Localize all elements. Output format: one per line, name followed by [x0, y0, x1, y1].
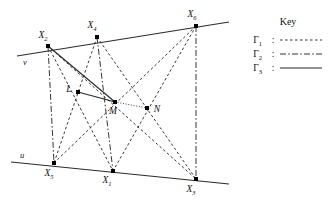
segment-group — [48, 26, 196, 179]
key-legend: Key Γ1:Γ2:Γ3: — [253, 16, 322, 75]
vertex-point-l — [76, 90, 80, 94]
vertex-point-x4 — [95, 35, 99, 39]
key-label-gamma1: Γ1 — [253, 35, 262, 47]
segment-x6-x1 — [113, 26, 196, 171]
vertex-label-x6: X6 — [186, 9, 197, 21]
vertex-point-x5 — [52, 161, 56, 165]
diagram-canvas: v u X1X2X3X4X5X6LMN Key Γ1:Γ2:Γ3: — [0, 0, 331, 205]
vertex-point-m — [113, 100, 117, 104]
key-label-gamma2: Γ2 — [253, 49, 262, 61]
vertex-point-n — [145, 106, 149, 110]
segment-x2-m — [48, 46, 115, 102]
key-label-gamma3: Γ3 — [253, 63, 262, 75]
vertex-point-x1 — [111, 169, 115, 173]
segment-x4-x1 — [97, 37, 113, 171]
line-u-label: u — [20, 150, 24, 160]
vertex-label-m: M — [108, 106, 118, 116]
line-v-label: v — [23, 57, 27, 67]
key-title: Key — [280, 16, 297, 27]
key-separator-gamma1: : — [272, 35, 275, 45]
vertex-point-x3 — [194, 177, 198, 181]
vertex-label-x2: X2 — [37, 30, 48, 42]
vertex-label-x3: X3 — [185, 184, 196, 196]
segment-x2-x3 — [48, 46, 196, 179]
vertex-label-x5: X5 — [43, 168, 54, 180]
vertex-point-x6 — [194, 24, 198, 28]
vertex-label-x4: X4 — [86, 20, 97, 32]
vertex-label-x1: X1 — [101, 175, 111, 187]
key-separator-gamma2: : — [272, 49, 275, 59]
key-entry-group: Γ1:Γ2:Γ3: — [253, 35, 322, 75]
segment-m-n — [115, 102, 147, 108]
key-separator-gamma3: : — [272, 63, 275, 73]
geometry-figure: v u X1X2X3X4X5X6LMN Key Γ1:Γ2:Γ3: — [0, 0, 331, 205]
vertex-label-l: L — [65, 84, 71, 94]
segment-x2-x5 — [48, 46, 54, 163]
vertex-point-x2 — [46, 44, 50, 48]
vertex-label-n: N — [153, 104, 161, 114]
